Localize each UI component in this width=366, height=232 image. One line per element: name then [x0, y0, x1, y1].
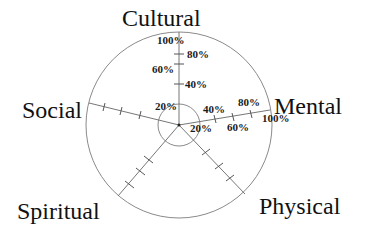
wellness-radar-diagram: 100% 80% 60% 40% 20% 20% 40% 60% 80% 100…: [0, 0, 366, 232]
cultural-tick-20: 20%: [155, 100, 177, 112]
label-physical: Physical: [259, 193, 341, 219]
label-cultural: Cultural: [122, 5, 201, 31]
mental-tick-40: 40%: [203, 103, 225, 115]
axis-spiritual: [118, 125, 179, 196]
axis-physical: [179, 125, 245, 194]
label-social: Social: [22, 97, 82, 123]
cultural-tick-100: 100%: [157, 34, 185, 46]
mental-tick-60: 60%: [227, 121, 249, 133]
cultural-tick-40: 40%: [185, 78, 207, 90]
label-mental: Mental: [274, 93, 342, 119]
cultural-tick-60: 60%: [152, 63, 174, 75]
center-point: [178, 124, 181, 127]
mental-tick-20: 20%: [190, 122, 212, 134]
cultural-tick-80: 80%: [187, 48, 209, 60]
mental-tick-80: 80%: [238, 96, 260, 108]
label-spiritual: Spiritual: [17, 198, 100, 224]
